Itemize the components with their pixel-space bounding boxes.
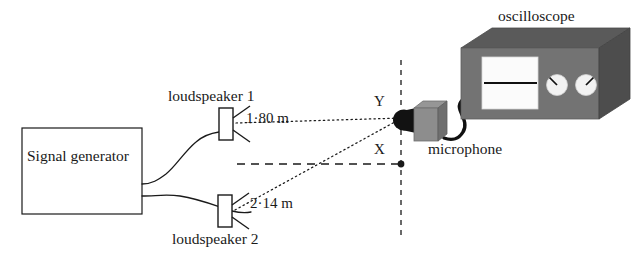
- label-point-y: Y: [374, 94, 385, 109]
- loudspeaker-1-cone-lower: [233, 130, 250, 142]
- loudspeaker-2-body: [218, 195, 232, 227]
- oscilloscope: [461, 28, 630, 119]
- label-point-x: X: [374, 142, 385, 157]
- microphone-body-front: [414, 108, 438, 141]
- label-loudspeaker-2: loudspeaker 2: [172, 231, 259, 247]
- wire-to-loudspeaker-1: [142, 132, 219, 184]
- loudspeaker-2-cone-upper: [232, 193, 249, 205]
- point-x-marker: [398, 161, 405, 168]
- label-signal-generator: Signal generator: [27, 148, 129, 164]
- loudspeaker-1-body: [219, 108, 233, 140]
- microphone-body-side: [438, 101, 447, 141]
- diagram-canvas: oscilloscope loudspeaker 1 loudspeaker 2…: [0, 0, 642, 256]
- label-distance-speaker2: 2·14 m: [250, 196, 293, 211]
- label-distance-speaker1: 1·80 m: [246, 111, 289, 126]
- apparatus-drawing: [0, 0, 642, 256]
- signal-generator-box: [22, 128, 142, 214]
- label-loudspeaker-1: loudspeaker 1: [168, 88, 255, 104]
- label-microphone: microphone: [428, 141, 502, 157]
- loudspeaker-2-cone-lower: [232, 217, 249, 229]
- label-oscilloscope: oscilloscope: [498, 8, 575, 24]
